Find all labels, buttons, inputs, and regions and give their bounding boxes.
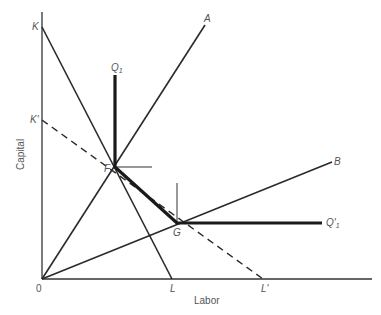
x-axis-title: Labor	[194, 295, 220, 306]
isoquant-Q1	[115, 75, 322, 223]
label-origin: 0	[36, 283, 42, 294]
ray-B	[42, 162, 332, 279]
production-diagram: K K' A B Q1 Q'1 F G 0 L L' Labor Capital	[0, 0, 381, 315]
label-L: L	[170, 283, 176, 294]
isocost-line-KL	[42, 27, 172, 279]
y-axis-title: Capital	[15, 139, 26, 170]
label-Q1-top: Q1	[111, 62, 123, 74]
label-K-prime: K'	[30, 114, 40, 125]
label-F: F	[104, 163, 111, 174]
ray-A	[42, 25, 205, 279]
label-L-prime: L'	[261, 283, 270, 294]
label-A: A	[203, 13, 211, 24]
label-B: B	[334, 156, 341, 167]
label-K: K	[32, 21, 40, 32]
label-Q1-prime: Q'1	[326, 217, 340, 229]
label-G: G	[173, 227, 181, 238]
